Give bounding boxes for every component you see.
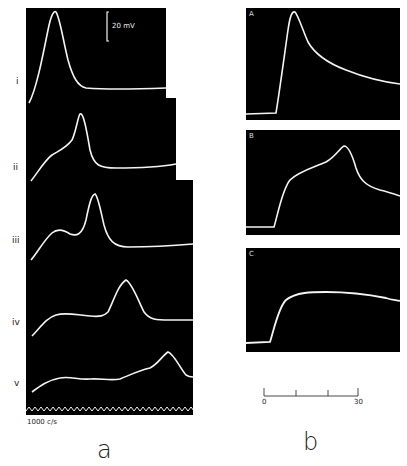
trace-label-ii: ii	[13, 162, 18, 172]
panel-a-oscilloscope-traces	[0, 0, 200, 420]
trace-label-iv: iv	[12, 317, 20, 327]
timebase-label: 1000 c/s	[27, 418, 57, 426]
subpanel-A	[246, 8, 400, 120]
panel-a: 20 mV i ii iii iv v 1000 c/s a	[0, 0, 200, 466]
time-scale-end-label: 30	[354, 398, 363, 406]
subpanel-B	[246, 130, 400, 235]
subpanel-C	[246, 248, 400, 352]
trace-label-i: i	[16, 76, 19, 86]
subpanel-C-label: C	[249, 250, 254, 258]
panel-b: A B C 0 30 b	[230, 0, 407, 466]
subpanel-B-label: B	[249, 132, 254, 140]
panel-b-letter: b	[303, 428, 318, 456]
voltage-scale-label: 20 mV	[112, 22, 135, 30]
panel-a-letter: a	[97, 436, 112, 464]
subpanel-A-label: A	[249, 10, 254, 18]
trace-label-v: v	[14, 378, 19, 388]
time-scale-start-label: 0	[262, 398, 266, 406]
trace-label-iii: iii	[12, 235, 20, 245]
time-scale-bar	[262, 386, 362, 400]
